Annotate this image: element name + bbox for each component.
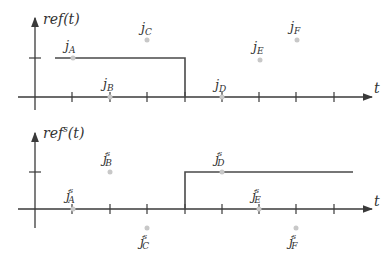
- label-jsE: jsE: [249, 186, 261, 205]
- bottom-signal-step: [185, 172, 353, 209]
- point-jsE: [257, 207, 262, 212]
- bottom-y-label: refs(t): [43, 124, 84, 141]
- label-jE: jE: [250, 39, 264, 56]
- label-jF: jF: [287, 19, 301, 36]
- point-jB: [108, 95, 113, 100]
- top-y-label: ref(t): [43, 11, 80, 27]
- point-jD: [220, 95, 225, 100]
- label-jC: jC: [138, 20, 152, 37]
- top-signal-step: [55, 58, 185, 97]
- label-jsF: jsF: [286, 232, 298, 251]
- point-jA: [71, 56, 76, 61]
- label-jD: jD: [212, 77, 226, 94]
- point-jC: [145, 38, 150, 43]
- top-plot: ref(t) t jA jB jC jD jE jF: [18, 11, 380, 110]
- label-jsD: jsD: [212, 149, 224, 168]
- label-jA: jA: [62, 38, 76, 55]
- label-jsC: jsC: [137, 232, 149, 251]
- label-jB: jB: [100, 76, 114, 93]
- point-jF: [295, 38, 300, 43]
- bottom-x-label: t: [374, 193, 380, 209]
- point-jsC: [145, 226, 150, 231]
- label-jsA: jsA: [63, 186, 75, 205]
- point-jsB: [108, 170, 113, 175]
- point-jsD: [220, 170, 225, 175]
- point-jE: [258, 58, 263, 63]
- bottom-plot: refs(t) t jsA jsB jsC jsD jsE jsF: [18, 124, 380, 251]
- top-x-label: t: [374, 80, 380, 96]
- label-jsB: jsB: [100, 149, 112, 168]
- point-jsA: [71, 207, 76, 212]
- point-jsF: [294, 226, 299, 231]
- diagram-canvas: ref(t) t jA jB jC jD jE jF refs(t): [0, 0, 392, 264]
